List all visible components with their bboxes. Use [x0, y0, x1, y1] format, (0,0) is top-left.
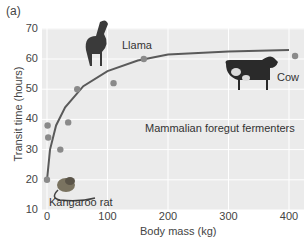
- x-axis-label: Body mass (kg): [140, 225, 216, 237]
- data-point: [65, 119, 71, 125]
- y-axis-label: Transit time (hours): [12, 64, 24, 164]
- y-tick-label: 20: [18, 173, 38, 185]
- cow-label: Cow: [277, 71, 299, 83]
- data-point: [110, 80, 116, 86]
- x-tick-label: 300: [219, 210, 237, 222]
- data-point: [45, 134, 51, 140]
- y-tick-label: 10: [18, 203, 38, 215]
- cow-illustration: [226, 56, 279, 90]
- data-point: [74, 86, 80, 92]
- gridlines: [42, 28, 304, 210]
- kangaroo-rat-label: Kangaroo rat: [49, 196, 113, 208]
- llama-label: Llama: [122, 39, 152, 51]
- data-point: [292, 53, 298, 59]
- x-tick-label: 400: [280, 210, 298, 222]
- group-annotation: Mammalian foregut fermenters: [145, 122, 295, 134]
- data-point: [141, 56, 147, 62]
- data-point: [44, 122, 50, 128]
- x-tick-label: 100: [98, 210, 116, 222]
- x-tick-label: 0: [44, 210, 50, 222]
- chart-svg: [0, 0, 304, 241]
- y-tick-label: 60: [18, 52, 38, 64]
- x-tick-label: 200: [159, 210, 177, 222]
- data-point: [57, 146, 63, 152]
- y-tick-label: 70: [18, 22, 38, 34]
- data-point: [44, 177, 50, 183]
